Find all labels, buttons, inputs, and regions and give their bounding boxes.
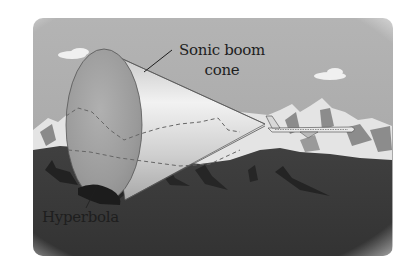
sonic-boom-cone-label: Sonic boom cone — [176, 40, 268, 80]
cone-label-line2: cone — [176, 60, 268, 80]
hyperbola-label: Hyperbola — [42, 207, 119, 227]
sonic-boom-figure: Sonic boom cone Hyperbola — [0, 0, 412, 266]
cone-label-line1: Sonic boom — [176, 40, 268, 60]
